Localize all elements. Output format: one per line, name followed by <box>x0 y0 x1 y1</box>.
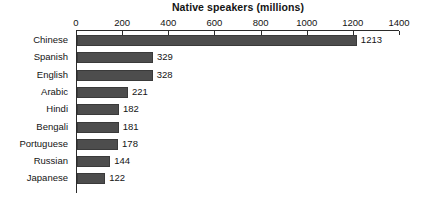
bar <box>77 104 119 115</box>
bar-row: Spanish329 <box>0 52 424 63</box>
bar-row: Japanese122 <box>0 173 424 184</box>
bar-value-label: 1213 <box>361 34 382 46</box>
bar <box>77 52 153 63</box>
x-tick-label: 400 <box>160 17 176 28</box>
category-label: Spanish <box>34 51 68 63</box>
x-tick-mark <box>168 31 169 35</box>
category-label: English <box>37 69 68 81</box>
x-tick-label: 600 <box>206 17 222 28</box>
x-tick-label: 800 <box>253 17 269 28</box>
bar <box>77 173 105 184</box>
bar-value-label: 181 <box>123 121 139 133</box>
bar <box>77 87 128 98</box>
bar <box>77 139 118 150</box>
bar <box>77 35 357 46</box>
category-label: Portuguese <box>19 138 68 150</box>
bar-value-label: 122 <box>109 172 125 184</box>
bar <box>77 156 110 167</box>
category-label: Chinese <box>33 34 68 46</box>
x-tick-mark <box>261 31 262 35</box>
category-label: Hindi <box>46 103 68 115</box>
x-tick-mark <box>399 31 400 35</box>
x-tick-label: 0 <box>73 17 78 28</box>
category-label: Bengali <box>36 121 68 133</box>
x-tick-mark <box>122 31 123 35</box>
bar-value-label: 182 <box>123 103 139 115</box>
bar-row: Hindi182 <box>0 104 424 115</box>
bar-chart: Native speakers (millions) 0200400600800… <box>0 0 424 203</box>
bar-row: English328 <box>0 70 424 81</box>
category-label: Russian <box>34 155 68 167</box>
plot-area: Chinese1213Spanish329English328Arabic221… <box>0 35 424 190</box>
x-tick-label: 1400 <box>388 17 409 28</box>
bar <box>77 70 153 81</box>
x-tick-mark <box>76 31 77 35</box>
category-label: Arabic <box>41 86 68 98</box>
bar-row: Portuguese178 <box>0 139 424 150</box>
category-label: Japanese <box>27 172 68 184</box>
chart-title: Native speakers (millions) <box>76 1 400 13</box>
bar-row: Arabic221 <box>0 87 424 98</box>
bar-value-label: 144 <box>114 155 130 167</box>
bar <box>77 122 119 133</box>
bar-value-label: 178 <box>122 138 138 150</box>
x-tick-label: 1200 <box>342 17 363 28</box>
bar-value-label: 328 <box>157 69 173 81</box>
bar-row: Russian144 <box>0 156 424 167</box>
x-axis-line <box>76 30 399 31</box>
bar-row: Bengali181 <box>0 122 424 133</box>
x-tick-mark <box>214 31 215 35</box>
x-tick-label: 200 <box>114 17 130 28</box>
x-tick-label: 1000 <box>296 17 317 28</box>
bar-value-label: 329 <box>157 51 173 63</box>
bar-value-label: 221 <box>132 86 148 98</box>
bar-row: Chinese1213 <box>0 35 424 46</box>
x-tick-mark <box>353 31 354 35</box>
x-tick-mark <box>307 31 308 35</box>
x-axis-tick-labels: 0200400600800100012001400 <box>0 17 424 29</box>
